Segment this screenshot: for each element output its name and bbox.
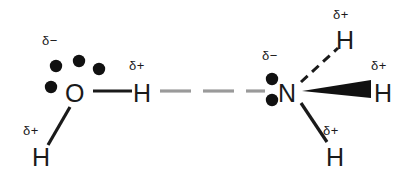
charge-label-oxygen: δ− bbox=[42, 34, 58, 47]
atom-label-ammonia-hydrogen-right: H bbox=[374, 81, 392, 106]
charge-label-nitrogen: δ− bbox=[262, 49, 278, 62]
charge-label-water-hydrogen-right: δ+ bbox=[129, 59, 145, 72]
hydrogen-bond-diagram: δ− O δ+ H δ+ H δ− N δ+ H δ+ H δ+ H bbox=[0, 0, 413, 174]
atom-label-ammonia-hydrogen-down: H bbox=[326, 145, 344, 170]
atom-label-nitrogen: N bbox=[278, 81, 296, 106]
charge-label-ammonia-hydrogen-down: δ+ bbox=[323, 124, 339, 137]
lone-pair-dot-oxygen-1 bbox=[50, 60, 62, 72]
atom-label-ammonia-hydrogen-up: H bbox=[336, 28, 354, 53]
bond-nitrogen-hydrogen-up bbox=[301, 48, 338, 82]
bond-nitrogen-hydrogen-wedge bbox=[302, 80, 371, 98]
charge-label-water-hydrogen-down: δ+ bbox=[23, 124, 39, 137]
atom-label-water-hydrogen-down: H bbox=[32, 145, 50, 170]
lone-pair-dot-nitrogen-2 bbox=[266, 94, 278, 106]
atom-label-oxygen: O bbox=[65, 81, 84, 106]
lone-pair-dot-oxygen-3 bbox=[93, 63, 105, 75]
lone-pair-dot-nitrogen-1 bbox=[266, 73, 278, 85]
charge-label-ammonia-hydrogen-right: δ+ bbox=[371, 59, 387, 72]
lone-pair-dot-oxygen-4 bbox=[45, 81, 57, 93]
lone-pair-dot-oxygen-2 bbox=[73, 55, 85, 67]
bond-oxygen-hydrogen-down bbox=[48, 107, 70, 145]
atom-label-water-hydrogen-right: H bbox=[133, 81, 151, 106]
charge-label-ammonia-hydrogen-up: δ+ bbox=[333, 8, 349, 21]
